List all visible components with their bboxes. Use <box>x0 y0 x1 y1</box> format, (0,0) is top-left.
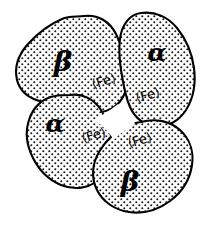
subunit-alpha-upper-right-label: α <box>147 38 166 67</box>
hemoglobin-tetramer-figure: β ⟨Fe⟩ α ⟨Fe⟩ α ⟨Fe⟩ β ⟨Fe⟩ <box>0 0 212 225</box>
subunit-alpha-upper-right-body <box>119 13 194 126</box>
subunit-alpha-upper-right: α ⟨Fe⟩ <box>119 13 194 126</box>
subunit-beta-upper-left-label: β <box>53 45 73 78</box>
subunit-alpha-lower-left-label: α <box>45 109 64 138</box>
subunit-beta-lower-right-label: β <box>120 165 140 198</box>
tetramer-diagram: β ⟨Fe⟩ α ⟨Fe⟩ α ⟨Fe⟩ β ⟨Fe⟩ <box>0 0 212 225</box>
